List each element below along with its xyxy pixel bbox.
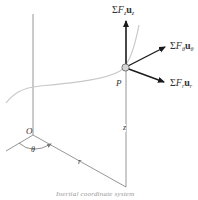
unit-vector-subscript: r [190,83,192,89]
force-z-label: ΣFzuz [112,5,134,16]
particle-p [122,64,129,71]
force-r-label: ΣFrur [170,78,192,89]
force-theta-label: ΣFθuθ [170,41,193,52]
origin-label: O [26,127,33,136]
force-r-arrow [126,68,164,82]
diagram-canvas [0,0,198,200]
cylindrical-coordinates-diagram: O P θ r z ΣFzuz ΣFθuθ ΣFrur Inertial coo… [0,0,198,200]
figure-caption: Inertial coordinate system [56,191,134,198]
theta-arc [19,143,51,149]
unit-vector-subscript: θ [190,46,193,52]
particle-path [6,25,139,103]
r-label: r [78,158,81,166]
unit-vector-subscript: z [132,10,134,16]
z-label: z [123,124,126,132]
force-theta-arrow [126,47,165,67]
particle-label: P [116,79,122,88]
theta-label: θ [31,146,35,154]
